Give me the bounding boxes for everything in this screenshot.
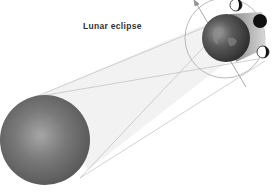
moon-top <box>230 0 242 11</box>
moon-eclipsed <box>253 14 267 28</box>
earth <box>202 14 250 62</box>
sun <box>0 95 90 185</box>
moon-bottom <box>257 46 269 58</box>
diagram-title: Lunar eclipse <box>83 21 142 31</box>
